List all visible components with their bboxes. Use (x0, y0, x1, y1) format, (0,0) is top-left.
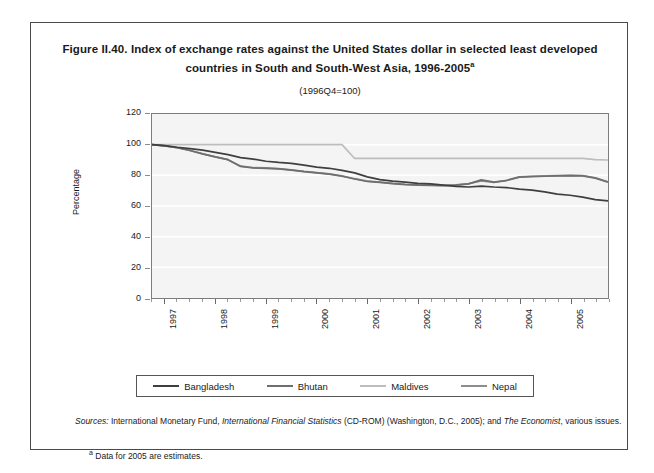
x-tick-minor (291, 299, 292, 302)
legend-label: Bhutan (298, 381, 328, 392)
x-tick-major (469, 299, 470, 304)
y-tick-label: 60 (111, 200, 141, 210)
x-tick-minor (456, 299, 457, 302)
y-tick-mark (145, 268, 150, 269)
legend-swatch-bangladesh (153, 385, 179, 387)
x-tick-major (520, 299, 521, 304)
x-tick-minor (202, 299, 203, 302)
x-tick-major (316, 299, 317, 304)
sources-text-2: (CD-ROM) (Washington, D.C., 2005); and (344, 416, 501, 426)
y-tick-mark (145, 175, 150, 176)
y-tick-label: 80 (111, 169, 141, 179)
x-tick-label: 2004 (524, 309, 534, 329)
footnote-text: Data for 2005 are estimates. (95, 451, 202, 461)
x-tick-minor (151, 299, 152, 302)
legend-item-bhutan[interactable]: Bhutan (267, 381, 328, 392)
legend-item-bangladesh[interactable]: Bangladesh (153, 381, 234, 392)
figure-container: Figure II.40. Index of exchange rates ag… (30, 22, 628, 450)
sources-text-1: International Monetary Fund, (111, 416, 220, 426)
x-tick-minor (495, 299, 496, 302)
x-tick-minor (533, 299, 534, 302)
x-tick-label: 2000 (320, 309, 330, 329)
x-tick-label: 2001 (371, 309, 381, 329)
y-tick-mark (145, 144, 150, 145)
y-axis-title: Percentage (71, 132, 81, 252)
x-tick-major (215, 299, 216, 304)
x-tick-minor (342, 299, 343, 302)
y-tick-label: 100 (111, 138, 141, 148)
x-tick-minor (189, 299, 190, 302)
legend-label: Maldives (391, 381, 429, 392)
x-tick-minor (431, 299, 432, 302)
legend-swatch-nepal (461, 385, 487, 387)
x-tick-minor (253, 299, 254, 302)
x-tick-major (164, 299, 165, 304)
x-tick-minor (444, 299, 445, 302)
x-tick-major (367, 299, 368, 304)
legend-label: Bangladesh (184, 381, 234, 392)
x-tick-label: 2003 (473, 309, 483, 329)
figure-title-line-1: Figure II.40. Index of exchange rates ag… (62, 43, 536, 55)
x-tick-minor (227, 299, 228, 302)
x-tick-label: 1997 (168, 309, 178, 329)
x-tick-minor (393, 299, 394, 302)
figure-title-superscript: a (470, 60, 474, 69)
chart-area: Percentage 020406080100120 1997199819992… (71, 105, 616, 360)
x-tick-label: 2002 (422, 309, 432, 329)
y-tick-label: 40 (111, 231, 141, 241)
legend-swatch-bhutan (267, 385, 293, 387)
x-tick-major (571, 299, 572, 304)
sources-italic-1: International Financial Statistics (222, 416, 342, 426)
x-tick-minor (558, 299, 559, 302)
legend-swatch-maldives (360, 385, 386, 387)
x-tick-minor (355, 299, 356, 302)
x-tick-minor (584, 299, 585, 302)
series-line-bangladesh (152, 145, 608, 201)
y-tick-label: 20 (111, 262, 141, 272)
sources-label: Sources: (75, 416, 109, 426)
y-tick-mark (145, 206, 150, 207)
footnote: a Data for 2005 are estimates. (89, 447, 609, 462)
legend-item-nepal[interactable]: Nepal (461, 381, 517, 392)
series-lines (152, 114, 608, 298)
figure-subtitle: (1996Q4=100) (59, 85, 601, 96)
x-tick-minor (405, 299, 406, 302)
y-tick-label: 120 (111, 107, 141, 117)
chart-legend: BangladeshBhutanMaldivesNepal (136, 375, 534, 397)
sources-text-3: , various issues. (560, 416, 621, 426)
y-tick-mark (145, 113, 150, 114)
x-tick-minor (545, 299, 546, 302)
x-tick-minor (329, 299, 330, 302)
x-tick-minor (380, 299, 381, 302)
y-tick-label: 0 (111, 293, 141, 303)
x-tick-label: 2005 (575, 309, 585, 329)
x-tick-minor (507, 299, 508, 302)
x-tick-minor (176, 299, 177, 302)
y-tick-mark (145, 237, 150, 238)
x-tick-minor (609, 299, 610, 302)
x-tick-minor (596, 299, 597, 302)
plot-area (151, 113, 609, 299)
sources-note: Sources: International Monetary Fund, In… (75, 415, 623, 428)
figure-title: Figure II.40. Index of exchange rates ag… (59, 41, 601, 76)
x-tick-major (418, 299, 419, 304)
legend-item-maldives[interactable]: Maldives (360, 381, 429, 392)
x-tick-minor (278, 299, 279, 302)
legend-label: Nepal (492, 381, 517, 392)
x-tick-label: 1998 (219, 309, 229, 329)
x-tick-minor (240, 299, 241, 302)
x-tick-minor (304, 299, 305, 302)
x-tick-major (266, 299, 267, 304)
x-tick-label: 1999 (270, 309, 280, 329)
sources-italic-2: The Economist (504, 416, 561, 426)
x-tick-minor (482, 299, 483, 302)
footnote-marker: a (89, 449, 93, 456)
y-tick-mark (145, 299, 150, 300)
